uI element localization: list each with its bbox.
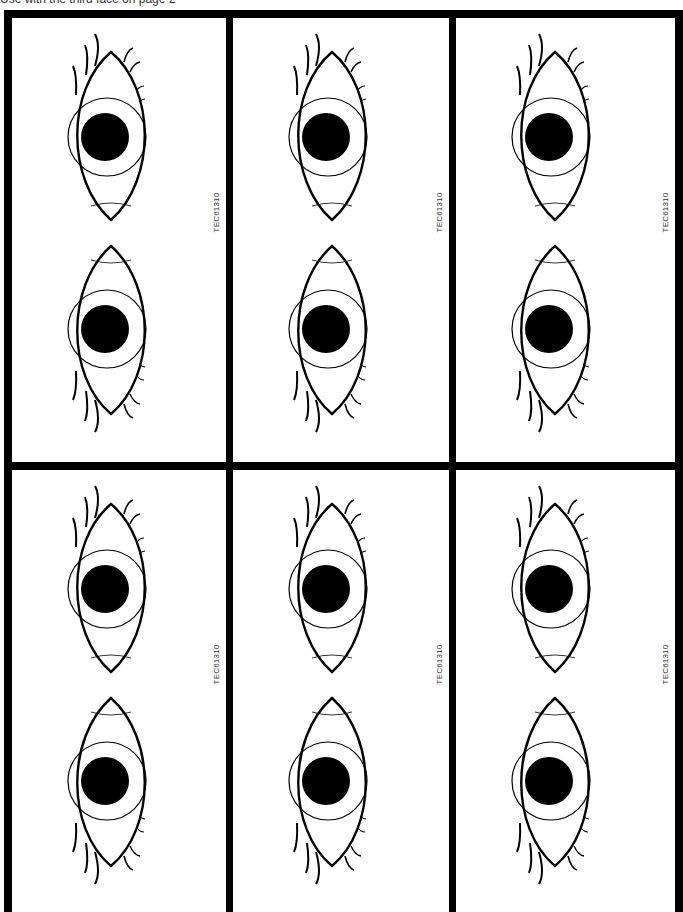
eye-card-1: TEC61310 bbox=[12, 18, 226, 462]
eye-card-3: TEC61310 bbox=[456, 18, 675, 462]
eye-upper-icon bbox=[282, 482, 382, 672]
product-code-label: TEC61310 bbox=[212, 183, 221, 243]
eye-upper-icon bbox=[282, 30, 382, 220]
eye-lower-icon bbox=[61, 246, 161, 436]
divider-vertical-1 bbox=[226, 10, 233, 912]
product-code-label: TEC61310 bbox=[661, 183, 670, 243]
product-code-label: TEC61310 bbox=[435, 635, 444, 695]
eye-lower-icon bbox=[61, 698, 161, 888]
product-code-label: TEC61310 bbox=[661, 635, 670, 695]
border-right bbox=[675, 10, 683, 912]
eye-card-4: TEC61310 bbox=[12, 470, 226, 912]
eye-upper-icon bbox=[61, 30, 161, 220]
divider-vertical-2 bbox=[449, 10, 456, 912]
border-top bbox=[4, 10, 683, 18]
border-left bbox=[4, 10, 12, 912]
eye-card-6: TEC61310 bbox=[456, 470, 675, 912]
eye-lower-icon bbox=[505, 246, 605, 436]
eye-card-2: TEC61310 bbox=[233, 18, 449, 462]
eye-upper-icon bbox=[505, 482, 605, 672]
eye-lower-icon bbox=[282, 246, 382, 436]
page-caption: Use with the third face on page 2 bbox=[0, 0, 175, 6]
divider-horizontal bbox=[4, 462, 683, 470]
eye-card-5: TEC61310 bbox=[233, 470, 449, 912]
eye-upper-icon bbox=[505, 30, 605, 220]
product-code-label: TEC61310 bbox=[212, 635, 221, 695]
eye-lower-icon bbox=[282, 698, 382, 888]
eye-lower-icon bbox=[505, 698, 605, 888]
eye-upper-icon bbox=[61, 482, 161, 672]
product-code-label: TEC61310 bbox=[435, 183, 444, 243]
